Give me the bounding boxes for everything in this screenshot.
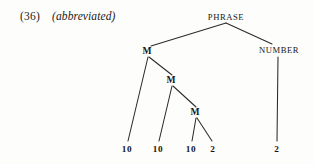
leaf-4: 2 [210, 144, 215, 154]
edge-m3-leaf4 [197, 118, 212, 141]
leaf-number: 2 [274, 144, 279, 154]
leaf-3: 10 [186, 144, 197, 154]
node-m3: M [190, 106, 199, 117]
leaf-1: 10 [122, 144, 133, 154]
edge-phrase-number [226, 23, 272, 44]
edge-phrase-m1 [151, 23, 226, 46]
node-phrase: PHRASE [208, 12, 244, 22]
leaf-2: 10 [153, 144, 164, 154]
edge-number-leaf [277, 57, 278, 141]
node-m1: M [142, 45, 151, 56]
edge-m2-m3 [173, 86, 196, 107]
edge-m3-leaf3 [192, 118, 196, 141]
edge-m1-leaf1 [128, 57, 148, 141]
tree-diagram: PHRASE NUMBER M M M 10 10 10 2 2 [0, 0, 314, 164]
node-m2: M [166, 74, 175, 85]
edge-m1-m2 [149, 57, 172, 75]
syntax-tree-figure: (36) (abbreviated) PHRASE NUMBER M M M 1… [0, 0, 314, 164]
node-number: NUMBER [259, 45, 299, 55]
edge-m2-leaf2 [159, 86, 172, 141]
